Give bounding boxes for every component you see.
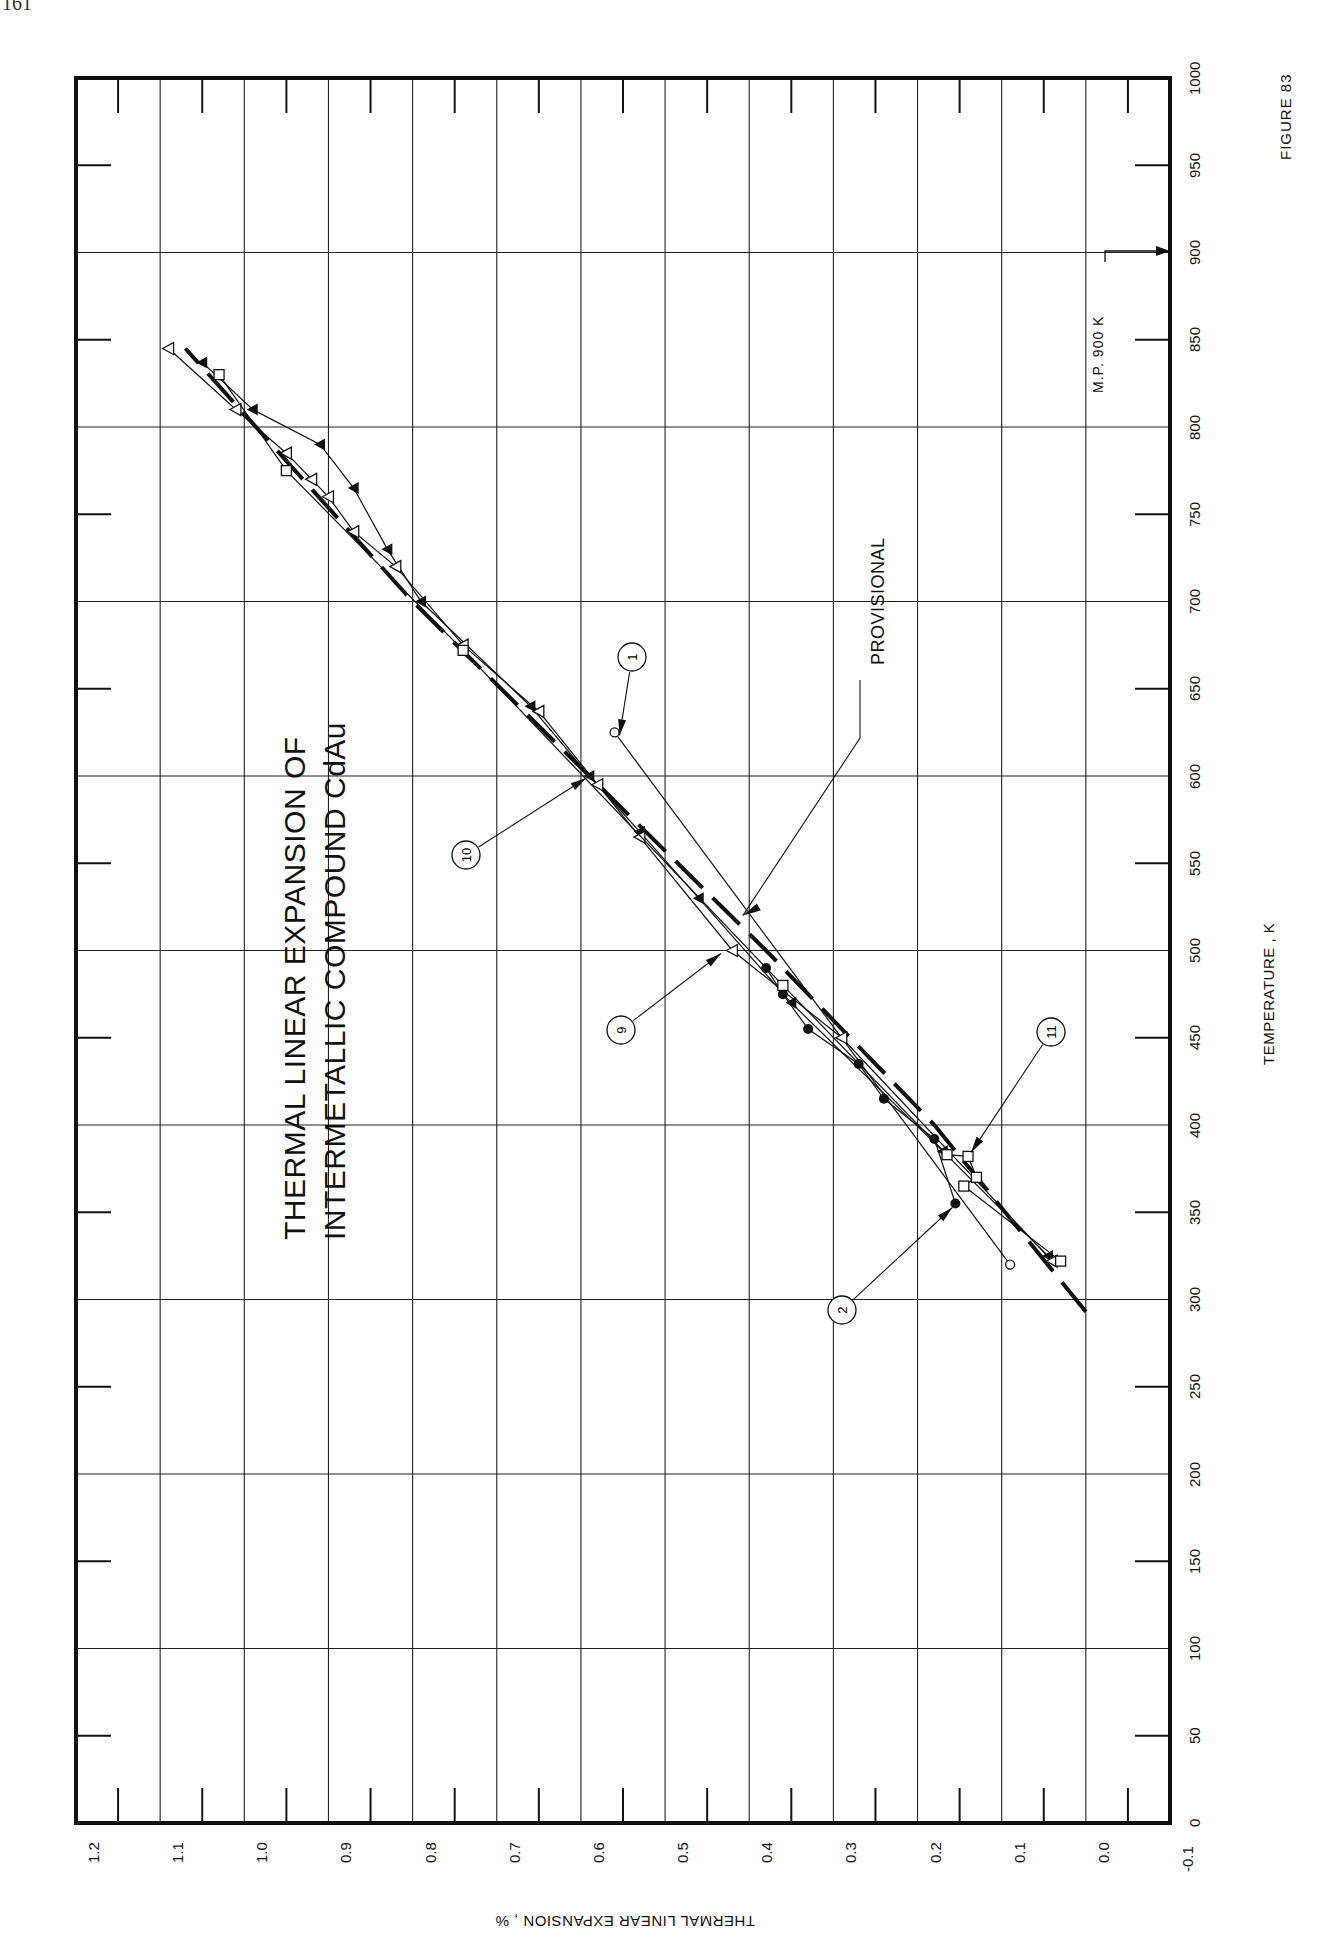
y-tick-label: 0.5 bbox=[674, 1842, 691, 1863]
svg-text:1: 1 bbox=[625, 653, 640, 660]
x-tick-label: 0 bbox=[1186, 1819, 1203, 1827]
figure-label: FIGURE 83 bbox=[1277, 73, 1294, 160]
melting-point-label: M.P. 900 K bbox=[1090, 316, 1106, 393]
x-tick-label: 750 bbox=[1186, 502, 1203, 527]
provisional-leader bbox=[743, 680, 860, 916]
reference-leaders: 1291011 bbox=[452, 643, 1065, 1324]
x-tick-label: 300 bbox=[1186, 1287, 1203, 1312]
x-tick-label: 600 bbox=[1186, 764, 1203, 789]
svg-text:10: 10 bbox=[459, 848, 474, 862]
y-tick-label: 1.1 bbox=[169, 1842, 186, 1863]
y-tick-label: 1.0 bbox=[253, 1842, 270, 1863]
grid-lines bbox=[76, 78, 1170, 1823]
y-tick-label: 0.4 bbox=[758, 1842, 775, 1863]
x-tick-label: 550 bbox=[1186, 851, 1203, 876]
x-tick-label: 950 bbox=[1186, 153, 1203, 178]
y-tick-label: 1.2 bbox=[85, 1842, 102, 1863]
chart-plot-area: 1291011 bbox=[0, 0, 1317, 1951]
x-tick-label: 700 bbox=[1186, 589, 1203, 614]
y-tick-label: 0.1 bbox=[1011, 1842, 1028, 1863]
y-tick-label: -0.1 bbox=[1179, 1846, 1196, 1872]
x-tick-label: 850 bbox=[1186, 327, 1203, 352]
provisional-label: PROVISIONAL bbox=[868, 537, 889, 665]
x-tick-label: 450 bbox=[1186, 1025, 1203, 1050]
x-tick-label: 150 bbox=[1186, 1549, 1203, 1574]
reference-label-1: 1 bbox=[618, 643, 646, 735]
x-tick-label: 650 bbox=[1186, 676, 1203, 701]
x-tick-label: 800 bbox=[1186, 415, 1203, 440]
y-axis-title: THERMAL LINEAR EXPANSION , % bbox=[495, 1913, 755, 1930]
reference-label-11: 11 bbox=[971, 1018, 1065, 1152]
y-tick-label: 0.6 bbox=[590, 1842, 607, 1863]
svg-text:11: 11 bbox=[1044, 1025, 1059, 1039]
svg-text:2: 2 bbox=[835, 1306, 850, 1313]
y-tick-label: 0.9 bbox=[337, 1842, 354, 1863]
x-tick-label: 400 bbox=[1186, 1113, 1203, 1138]
x-tick-label: 500 bbox=[1186, 938, 1203, 963]
y-tick-label: 0.8 bbox=[422, 1842, 439, 1863]
melting-point-marker bbox=[1105, 246, 1170, 262]
y-tick-label: 0.2 bbox=[927, 1842, 944, 1863]
x-axis-title: TEMPERATURE , K bbox=[1260, 923, 1277, 1065]
y-tick-label: 0.7 bbox=[506, 1842, 523, 1863]
x-tick-label: 50 bbox=[1186, 1727, 1203, 1744]
svg-text:9: 9 bbox=[614, 1026, 629, 1033]
reference-label-2: 2 bbox=[828, 1208, 952, 1324]
x-tick-label: 100 bbox=[1186, 1636, 1203, 1661]
chart-title-line-2: INTERMETALLIC COMPOUND CdAu bbox=[318, 722, 352, 1240]
y-tick-label: 0.3 bbox=[842, 1842, 859, 1863]
chart-title-line-1: THERMAL LINEAR EXPANSION OF bbox=[278, 736, 312, 1240]
x-tick-label: 350 bbox=[1186, 1200, 1203, 1225]
x-tick-label: 1000 bbox=[1186, 61, 1203, 94]
series-1 bbox=[610, 728, 1015, 1269]
reference-label-9: 9 bbox=[607, 954, 721, 1045]
x-tick-label: 250 bbox=[1186, 1374, 1203, 1399]
y-tick-label: 0.0 bbox=[1095, 1842, 1112, 1863]
x-tick-label: 200 bbox=[1186, 1462, 1203, 1487]
x-tick-label: 900 bbox=[1186, 240, 1203, 265]
reference-label-10: 10 bbox=[452, 778, 586, 869]
